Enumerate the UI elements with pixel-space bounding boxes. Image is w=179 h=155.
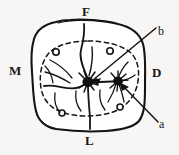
- orientation-label-mesial: M: [9, 64, 21, 77]
- pit-upper-right: [107, 48, 113, 54]
- orientation-label-lingual: L: [85, 134, 94, 147]
- orientation-label-facial: F: [82, 5, 90, 18]
- tooth-occlusal-diagram: F M D L b a: [0, 0, 179, 155]
- pit-lower-right: [117, 104, 123, 110]
- callout-label-a: a: [159, 118, 164, 130]
- pit-upper-left: [53, 49, 59, 55]
- tooth-crown-outline: [31, 20, 145, 132]
- pit-lower-left: [59, 110, 65, 116]
- callout-label-b: b: [158, 25, 164, 37]
- orientation-label-distal: D: [152, 66, 162, 79]
